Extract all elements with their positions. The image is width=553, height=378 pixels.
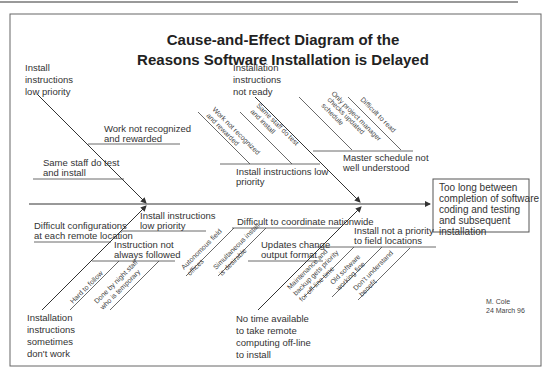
subcause-done-by-night-staff: Done by night staff	[93, 259, 140, 306]
category-no-time-available: No time available to take remote computi…	[236, 313, 311, 360]
svg-text:completion of software: completion of software	[439, 193, 539, 204]
title-line-2: Reasons Software Installation is Delayed	[137, 51, 429, 68]
svg-text:instructions: instructions	[233, 74, 281, 85]
category-install-instructions-low-priority: Install instructions low priority	[25, 62, 73, 97]
svg-text:Installation: Installation	[233, 62, 278, 73]
category-instructions-sometimes-dont-work: Installation instructions sometimes don'…	[27, 312, 75, 359]
svg-text:Install: Install	[25, 62, 50, 73]
svg-text:and subsequent: and subsequent	[439, 215, 510, 226]
svg-text:No time available: No time available	[236, 313, 309, 324]
category-installation-instructions-not-ready: Installation instructions not ready	[233, 62, 281, 97]
bone-top-middle: Installation instructions not ready Inst…	[198, 62, 429, 202]
svg-text:well understood: well understood	[342, 162, 410, 173]
svg-text:Too long between: Too long between	[439, 182, 517, 193]
svg-text:coding and testing: coding and testing	[439, 204, 520, 215]
svg-text:priority: priority	[236, 176, 265, 187]
svg-text:don't work: don't work	[27, 348, 70, 359]
svg-text:output format: output format	[261, 249, 317, 260]
bone-bottom-left: Installation instructions sometimes don'…	[27, 206, 216, 359]
svg-text:computing off-line: computing off-line	[236, 337, 311, 348]
svg-text:low priority: low priority	[140, 220, 186, 231]
svg-text:always followed: always followed	[114, 249, 181, 260]
bone-bottom-middle: No time available to take remote computi…	[180, 207, 436, 360]
svg-text:installation: installation	[439, 226, 486, 237]
svg-text:to take remote: to take remote	[236, 325, 297, 336]
svg-text:not ready: not ready	[233, 86, 273, 97]
svg-text:instructions: instructions	[25, 74, 73, 85]
svg-text:and install: and install	[43, 167, 86, 178]
svg-text:and rewarded: and rewarded	[104, 133, 162, 144]
svg-text:to install: to install	[236, 349, 271, 360]
author-name: M. Cole	[486, 298, 510, 305]
title-line-1: Cause-and-Effect Diagram of the	[167, 31, 400, 48]
fishbone-diagram: Cause-and-Effect Diagram of the Reasons …	[0, 0, 553, 378]
author-date: 24 March 96	[486, 307, 525, 314]
svg-text:low priority: low priority	[25, 86, 71, 97]
svg-text:Installation: Installation	[27, 312, 72, 323]
bone-top-left: Install instructions low priority Work n…	[25, 62, 191, 203]
svg-text:sometimes: sometimes	[27, 336, 73, 347]
author-signature: M. Cole 24 March 96	[486, 298, 525, 314]
svg-text:instructions: instructions	[27, 324, 75, 335]
svg-text:to field locations: to field locations	[354, 235, 422, 246]
